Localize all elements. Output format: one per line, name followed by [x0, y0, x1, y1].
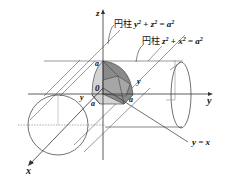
point-label-y-left: y [79, 93, 84, 102]
point-label-a-top: a [95, 59, 99, 68]
eq-exp: 2 [170, 19, 174, 25]
eq-op: + [169, 36, 179, 46]
intersecting-cylinders-diagram: z y x 0 a a a y y 円柱 y2 + z2 = a2 円柱 z2 … [0, 0, 230, 182]
origin-label: 0 [95, 83, 100, 93]
point-label-a-right: a [129, 95, 133, 104]
cylinder-1-prefix: 円柱 [114, 18, 132, 29]
eq-op: = [186, 36, 196, 46]
x-axis-label: x [25, 165, 31, 176]
plane-label: y = x [191, 137, 211, 147]
generator-line [148, 46, 162, 61]
z-axis-label: z [95, 8, 100, 18]
cylinder-2-prefix: 円柱 [142, 35, 160, 46]
cylinder-2-label: 円柱 z2 + x2 = a2 [142, 35, 203, 46]
y-axis-label: y [206, 95, 212, 106]
cylinder-1-label: 円柱 y2 + z2 = a2 [114, 18, 174, 29]
generator-line [170, 62, 181, 70]
cylinder-1-equation: y2 + z2 = a2 [133, 19, 174, 29]
generator-line [60, 61, 95, 96]
eq-op: + [141, 19, 151, 29]
eq-exp: 2 [199, 36, 203, 42]
right-cylinder-end-ellipse [171, 62, 191, 128]
point-label-y-right: y [136, 77, 141, 86]
leader-cylinder-2 [136, 45, 143, 62]
eq-op: = [157, 19, 167, 29]
z-axis-arrow-icon [101, 9, 105, 14]
generator-line [44, 60, 80, 96]
point-label-a-left: a [91, 99, 95, 108]
cylinder-2-equation: z2 + x2 = a2 [161, 36, 203, 46]
